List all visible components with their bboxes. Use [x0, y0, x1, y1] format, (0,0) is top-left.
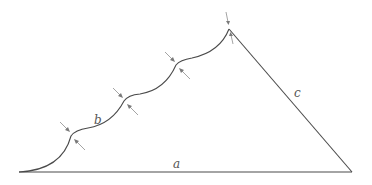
cusp-arrows-2: [113, 88, 138, 115]
label-b: b: [94, 113, 102, 127]
cusp-arrows-3: [165, 52, 190, 79]
side-b-scalloped-curve: [19, 29, 229, 172]
cusp-arrows-1: [60, 122, 85, 150]
label-a: a: [173, 157, 180, 171]
apex-arrows: [226, 12, 233, 44]
triangle-diagram: b a c: [0, 0, 372, 185]
side-c-line: [229, 29, 352, 172]
label-c: c: [294, 86, 301, 100]
diagram-canvas: b a c: [0, 0, 372, 185]
